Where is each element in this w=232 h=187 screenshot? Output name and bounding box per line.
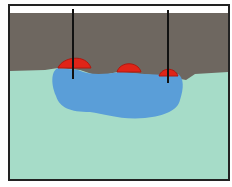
diagram-canvas <box>0 0 232 187</box>
sky-strip <box>10 6 228 13</box>
